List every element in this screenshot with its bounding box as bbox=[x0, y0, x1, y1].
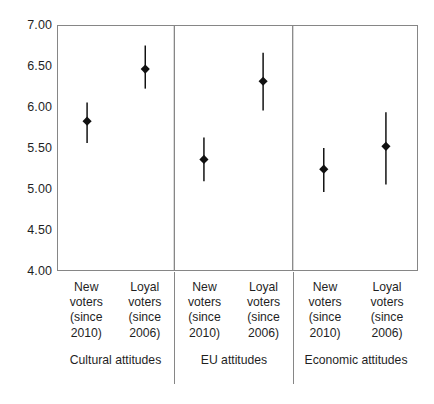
y-axis-tick-label: 6.50 bbox=[8, 60, 52, 72]
data-point-group bbox=[141, 46, 150, 89]
data-point-marker bbox=[141, 65, 150, 74]
data-point-group bbox=[381, 112, 390, 184]
category-label: Loyal voters (since 2006) bbox=[356, 280, 418, 346]
category-axis: New voters (since 2010) Loyal voters (si… bbox=[57, 272, 418, 384]
data-point-group bbox=[83, 102, 92, 143]
data-point-group bbox=[259, 53, 268, 111]
y-axis-tick-label: 4.00 bbox=[8, 265, 52, 277]
data-point-marker bbox=[199, 155, 208, 164]
category-panel-cultural: New voters (since 2010) Loyal voters (si… bbox=[57, 272, 174, 384]
y-axis: 7.00 6.50 6.00 5.50 5.00 4.50 4.00 bbox=[0, 0, 52, 404]
category-label: New voters (since 2010) bbox=[175, 280, 234, 346]
data-point-marker bbox=[259, 77, 268, 86]
y-axis-tick-label: 5.50 bbox=[8, 142, 52, 154]
data-series-svg bbox=[58, 26, 417, 270]
data-point-marker bbox=[319, 165, 328, 174]
y-axis-tick-label: 6.00 bbox=[8, 101, 52, 113]
category-panel-economic: New voters (since 2010) Loyal voters (si… bbox=[293, 272, 418, 384]
data-point-marker bbox=[381, 142, 390, 151]
category-label: New voters (since 2010) bbox=[294, 280, 356, 346]
category-label: New voters (since 2010) bbox=[57, 280, 116, 346]
y-axis-tick-label: 5.00 bbox=[8, 183, 52, 195]
y-axis-tick-label: 4.50 bbox=[8, 224, 52, 236]
plot-area bbox=[57, 25, 418, 271]
y-axis-tick-label: 7.00 bbox=[8, 19, 52, 31]
category-label: Loyal voters (since 2006) bbox=[116, 280, 175, 346]
chart-figure: 7.00 6.50 6.00 5.50 5.00 4.50 4.00 New v… bbox=[0, 0, 434, 404]
panel-title: EU attitudes bbox=[175, 346, 293, 368]
category-panel-eu: New voters (since 2010) Loyal voters (si… bbox=[174, 272, 293, 384]
data-point-group bbox=[319, 148, 328, 192]
panel-title: Economic attitudes bbox=[294, 346, 418, 368]
category-label: Loyal voters (since 2006) bbox=[234, 280, 293, 346]
panel-title: Cultural attitudes bbox=[57, 346, 174, 368]
data-point-group bbox=[199, 137, 208, 181]
data-point-marker bbox=[83, 117, 92, 126]
